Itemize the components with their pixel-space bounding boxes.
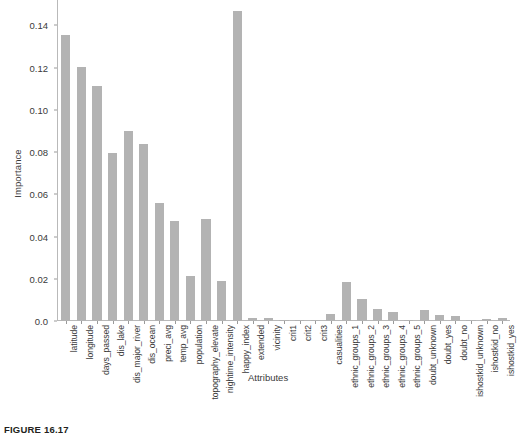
bar[interactable]: [373, 309, 382, 321]
x-tick-label: casualities: [334, 325, 344, 365]
x-tick-label: crit1: [288, 325, 298, 341]
x-tick-label: nightime_intensity: [225, 325, 235, 393]
bar-slot: [183, 0, 199, 321]
y-tick-label: 0.06: [30, 189, 49, 200]
bar-slot: [354, 0, 370, 321]
y-tick-mark: [54, 278, 57, 279]
x-tick-label: population: [194, 325, 204, 364]
x-tick-mark: [487, 321, 488, 324]
bar-slot: [307, 0, 323, 321]
bar[interactable]: [155, 203, 164, 321]
bar[interactable]: [186, 276, 195, 321]
bar[interactable]: [170, 221, 179, 321]
figure-caption: FIGURE 16.17: [4, 424, 69, 435]
x-tick-mark: [66, 321, 67, 324]
x-tick-mark: [237, 321, 238, 324]
x-tick-mark: [97, 321, 98, 324]
x-tick-mark: [455, 321, 456, 324]
bar[interactable]: [139, 144, 148, 321]
bar-slot: [74, 0, 90, 321]
bar-slot: [339, 0, 355, 321]
x-tick-label: dis_major_river: [132, 325, 142, 383]
bar-chart: Importance Attributes 0.00.020.040.060.0…: [0, 0, 519, 410]
x-tick-mark: [113, 321, 114, 324]
x-tick-mark: [502, 321, 503, 324]
x-tick-label: ethnic_groups_5: [412, 325, 422, 388]
x-tick-label: ethnic_groups_4: [397, 325, 407, 388]
x-tick-mark: [471, 321, 472, 324]
x-tick-mark: [378, 321, 379, 324]
x-tick-mark: [300, 321, 301, 324]
bar[interactable]: [217, 281, 226, 321]
bar-slot: [448, 0, 464, 321]
bar-slot: [152, 0, 168, 321]
bar[interactable]: [61, 35, 70, 321]
y-tick-label: 0.04: [30, 231, 49, 242]
bar-slot: [432, 0, 448, 321]
x-tick-label: dis_ocean: [147, 325, 157, 364]
x-tick-label: crit3: [319, 325, 329, 341]
x-tick-label: preci_avg: [163, 325, 173, 362]
bar-slot: [370, 0, 386, 321]
x-tick-label: doubt_no: [459, 325, 469, 360]
bar[interactable]: [326, 314, 335, 321]
bar-slot: [463, 0, 479, 321]
bar[interactable]: [108, 153, 117, 321]
x-tick-mark: [206, 321, 207, 324]
bar-slot: [105, 0, 121, 321]
y-tick-mark: [54, 152, 57, 153]
x-tick-label: ishostkid_unknown: [475, 325, 485, 397]
bar[interactable]: [233, 11, 242, 321]
bar-slot: [229, 0, 245, 321]
x-tick-mark: [159, 321, 160, 324]
y-tick-mark: [54, 236, 57, 237]
y-tick-label: 0.02: [30, 273, 49, 284]
bar-slot: [198, 0, 214, 321]
x-tick-label: ethnic_groups_2: [366, 325, 376, 388]
bar[interactable]: [92, 86, 101, 321]
bar[interactable]: [357, 299, 366, 321]
x-tick-label: dis_lake: [116, 325, 126, 356]
y-tick-mark: [54, 321, 57, 322]
x-tick-mark: [393, 321, 394, 324]
bar[interactable]: [124, 131, 133, 321]
y-tick-mark: [54, 67, 57, 68]
bar[interactable]: [388, 312, 397, 321]
y-tick-label: 0.12: [30, 62, 49, 73]
y-tick-label: 0.0: [35, 316, 48, 327]
y-tick-label: 0.10: [30, 104, 49, 115]
x-tick-mark: [409, 321, 410, 324]
bar[interactable]: [77, 67, 86, 321]
bar-slot: [261, 0, 277, 321]
x-tick-mark: [190, 321, 191, 324]
x-tick-label: ishostkid_yes: [506, 325, 516, 376]
bar[interactable]: [420, 310, 429, 321]
x-tick-label: longitude: [85, 325, 95, 359]
bar-slot: [385, 0, 401, 321]
bar[interactable]: [342, 282, 351, 321]
bar-slot: [89, 0, 105, 321]
x-tick-label: days_passed: [101, 325, 111, 375]
x-tick-mark: [128, 321, 129, 324]
x-tick-mark: [440, 321, 441, 324]
x-tick-label: doubt_unknown: [428, 325, 438, 385]
y-tick-label: 0.08: [30, 147, 49, 158]
bar-slot: [494, 0, 510, 321]
bar-slot: [214, 0, 230, 321]
x-axis-ticklabels: latitudelongitudedays_passeddis_lakedis_…: [58, 325, 510, 410]
y-tick-mark: [54, 109, 57, 110]
x-tick-label: temp_avg: [178, 325, 188, 362]
x-tick-mark: [346, 321, 347, 324]
x-tick-mark: [284, 321, 285, 324]
bar-slot: [323, 0, 339, 321]
x-tick-mark: [315, 321, 316, 324]
x-tick-mark: [81, 321, 82, 324]
x-tick-mark: [268, 321, 269, 324]
x-tick-mark: [144, 321, 145, 324]
figure-container: Importance Attributes 0.00.020.040.060.0…: [0, 0, 519, 444]
x-tick-label: doubt_yes: [443, 325, 453, 364]
bar-slot: [245, 0, 261, 321]
bar[interactable]: [201, 219, 210, 321]
x-tick-mark: [175, 321, 176, 324]
bar-slot: [292, 0, 308, 321]
